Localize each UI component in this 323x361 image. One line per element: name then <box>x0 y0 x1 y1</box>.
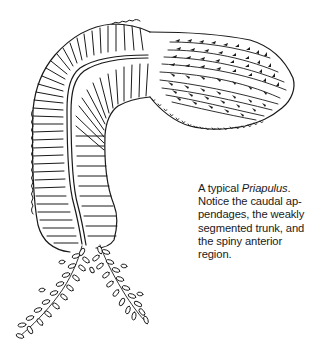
caption-line-5: the spiny anterior <box>198 235 323 248</box>
trunk-outline <box>33 24 150 252</box>
caption-line-1: A typical Priapulus. <box>198 182 323 195</box>
anterior-proboscis <box>150 32 294 129</box>
trunk-annulations <box>32 20 144 244</box>
caption-text: A typical <box>198 182 242 194</box>
caption-line-6: region. <box>198 248 323 261</box>
priapulus-figure: A typical Priapulus. Notice the caudal a… <box>0 0 323 361</box>
inner-ribs <box>76 64 148 236</box>
caption-line-2: Notice the caudal ap- <box>198 195 323 208</box>
caudal-appendage-right <box>92 245 150 324</box>
figure-caption: A typical Priapulus. Notice the caudal a… <box>198 182 323 261</box>
priapulus-illustration <box>0 0 323 361</box>
caption-text: . <box>288 182 291 194</box>
caudal-appendage-left <box>16 246 96 339</box>
caption-line-4: segmented trunk, and <box>198 222 323 235</box>
caption-genus-name: Priapulus <box>242 182 288 194</box>
proboscis-spine-rows <box>160 42 286 120</box>
caption-line-3: pendages, the weakly <box>198 208 323 221</box>
